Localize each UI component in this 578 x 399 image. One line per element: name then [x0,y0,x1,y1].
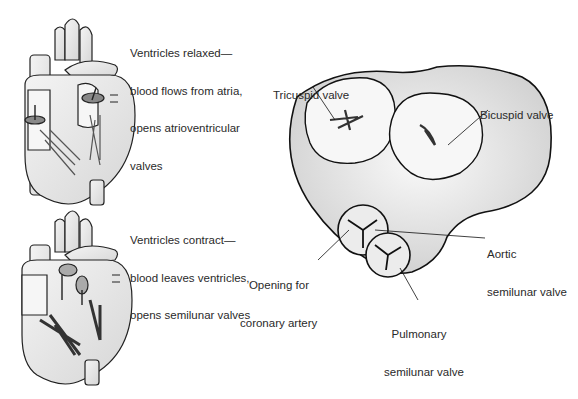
label-coronary-opening: Opening for coronary artery [240,254,309,342]
label-line: Pulmonary [384,328,454,341]
caption-line: opens semilunar valves [130,309,250,322]
label-line: semilunar valve [384,366,454,379]
label-tricuspid-valve: Tricuspid valve [273,89,349,102]
caption-line: opens atrioventricular [130,122,243,135]
label-line: coronary artery [240,317,309,330]
heart-relaxed-illustration [25,19,135,205]
caption-line: Ventricles contract— [130,234,250,247]
label-line: semilunar valve [487,286,567,299]
caption-contract: Ventricles contract— blood leaves ventri… [130,209,250,334]
label-aortic-semilunar-valve: Aortic semilunar valve [487,223,567,311]
caption-line: blood leaves ventricles, [130,272,250,285]
label-line: Aortic [487,248,567,261]
caption-line: blood flows from atria, [130,85,243,98]
label-pulmonary-semilunar-valve: Pulmonary semilunar valve [384,303,454,391]
label-line: Opening for [240,279,309,292]
label-bicuspid-valve: Bicuspid valve [480,109,554,122]
heart-contract-illustration [22,211,132,385]
caption-line: valves [130,160,243,173]
caption-relaxed: Ventricles relaxed— blood flows from atr… [130,22,243,185]
caption-line: Ventricles relaxed— [130,47,243,60]
